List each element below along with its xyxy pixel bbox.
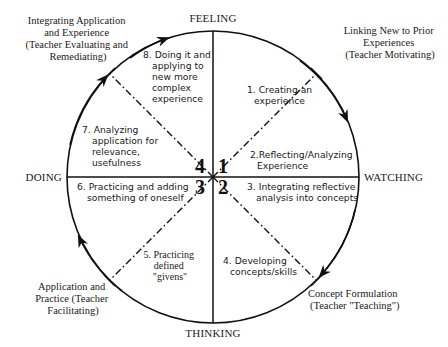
axis-label-top: FEELING — [189, 12, 236, 24]
quadrant-number-2: 2 — [218, 176, 228, 198]
step-8: 8. Doing it and applying to new more com… — [143, 49, 214, 104]
step-5: 5. Practicing defined "givens" — [143, 249, 196, 282]
axis-label-right: WATCHING — [364, 171, 423, 183]
quadrant-number-1: 1 — [218, 155, 228, 177]
corner-label-top-left: Integrating Application and Experience (… — [25, 15, 130, 63]
corner-label-top-right: Linking New to Prior Experiences (Teache… — [344, 25, 437, 61]
arrow-icon — [322, 210, 355, 274]
step-3: 3. Integrating reflective analysis into … — [247, 181, 358, 203]
learning-cycle-diagram: FEELING WATCHING THINKING DOING Integrat… — [0, 0, 448, 347]
step-1: 1. Creating an experience — [247, 84, 315, 106]
axis-label-left: DOING — [26, 171, 62, 183]
step-4: 4. Developing concepts/skills — [223, 255, 297, 277]
step-2: 2.Reflecting/Analyzing Experience — [250, 149, 355, 171]
quadrant-number-4: 4 — [195, 155, 205, 177]
quadrant-number-3: 3 — [195, 176, 205, 198]
step-7: 7. Analyzing application for relevance, … — [82, 124, 161, 168]
corner-label-bottom-left: Application and Practice (Teacher Facili… — [35, 281, 111, 317]
corner-label-bottom-right: Concept Formulation (Teacher "Teaching") — [308, 288, 400, 312]
axis-label-bottom: THINKING — [185, 327, 240, 339]
step-6: 6. Practicing and adding something of on… — [77, 181, 192, 203]
